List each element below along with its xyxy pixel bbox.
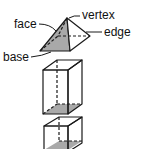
cube-top-face bbox=[44, 117, 82, 126]
prism-top-face bbox=[43, 60, 82, 70]
square-pyramid bbox=[40, 18, 90, 51]
cube bbox=[44, 117, 82, 149]
base-label: base bbox=[3, 50, 29, 64]
rectangular-prism bbox=[43, 60, 82, 114]
pyramid-shaded-face bbox=[40, 18, 70, 51]
prism-shaded-base bbox=[43, 104, 82, 114]
face-label: face bbox=[14, 17, 37, 31]
vertex-label: vertex bbox=[82, 8, 115, 22]
pyramid-right-face bbox=[67, 18, 90, 51]
solid-figures-diagram: face vertex edge base bbox=[0, 0, 141, 149]
edge-label: edge bbox=[104, 25, 131, 39]
cube-shaded-base bbox=[44, 141, 82, 149]
